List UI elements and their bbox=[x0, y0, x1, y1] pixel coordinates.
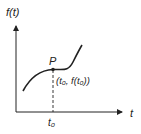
function-graph: f(t) t P (t₀, f(t₀)) t₀ bbox=[0, 0, 141, 134]
y-axis-label: f(t) bbox=[6, 6, 20, 18]
point-p bbox=[51, 68, 55, 72]
x-axis-label: t bbox=[130, 107, 134, 119]
point-label: P bbox=[49, 55, 57, 67]
point-coordinate-label: (t₀, f(t₀)) bbox=[56, 75, 90, 86]
x-tick-label: t₀ bbox=[48, 117, 55, 128]
